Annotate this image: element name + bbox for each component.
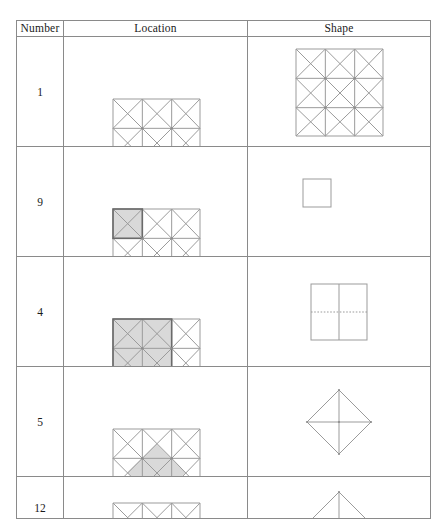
location-cell xyxy=(64,367,248,477)
diamond-quartered-icon xyxy=(305,490,373,519)
header-row: Number Location Shape xyxy=(17,21,431,37)
column-header-shape: Shape xyxy=(248,21,431,37)
shape-cell xyxy=(248,477,431,519)
table-row: 9 xyxy=(17,147,431,257)
location-cell xyxy=(64,477,248,519)
grid-3x3-with-diagonals-icon xyxy=(112,98,201,147)
table-row: 5 xyxy=(17,367,431,477)
grid-3x3-with-diagonals-icon xyxy=(295,48,384,137)
row-number-cell: 1 xyxy=(17,37,64,147)
row-number-cell: 9 xyxy=(17,147,64,257)
grid-3x3-with-diagonals-icon xyxy=(112,208,201,257)
square-outline-icon xyxy=(302,178,332,208)
table-header: Number Location Shape xyxy=(17,21,431,37)
location-cell xyxy=(64,37,248,147)
grid-3x3-with-diagonals-icon xyxy=(112,428,201,477)
table-body: 1 xyxy=(17,37,431,519)
row-number-cell: 4 xyxy=(17,257,64,367)
row-number-cell: 12 xyxy=(17,477,64,519)
shape-cell xyxy=(248,147,431,257)
grid-3x3-with-diagonals-icon xyxy=(112,502,201,519)
square-split-vertical-solid-horizontal-dotted-icon xyxy=(310,283,368,341)
table-row: 12 xyxy=(17,477,431,519)
shape-cell xyxy=(248,257,431,367)
table-row: 4 xyxy=(17,257,431,367)
column-header-location: Location xyxy=(64,21,248,37)
worksheet-page: Number Location Shape 1 xyxy=(0,0,446,520)
diamond-quartered-icon xyxy=(305,388,373,456)
shape-cell xyxy=(248,37,431,147)
location-cell xyxy=(64,147,248,257)
location-cell xyxy=(64,257,248,367)
shape-cell xyxy=(248,367,431,477)
row-number-cell: 5 xyxy=(17,367,64,477)
table-row: 1 xyxy=(17,37,431,147)
grid-3x3-with-diagonals-icon xyxy=(112,318,201,367)
column-header-number: Number xyxy=(17,21,64,37)
pattern-table: Number Location Shape 1 xyxy=(16,20,431,519)
